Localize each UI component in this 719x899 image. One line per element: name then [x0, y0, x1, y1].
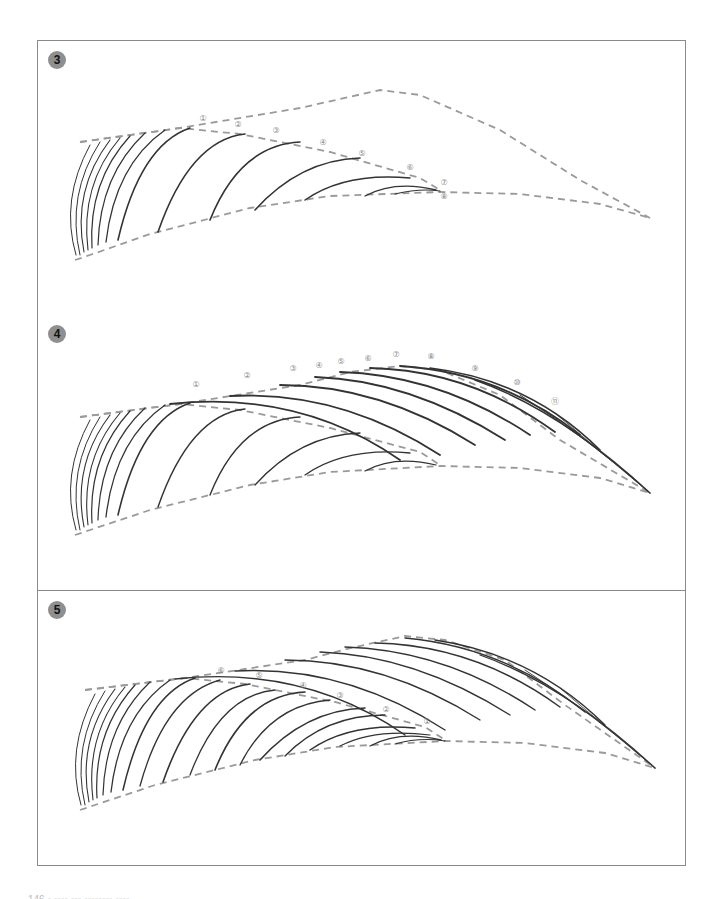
eyebrow-diagram-step-5: ⑥⑤④③②①	[75, 636, 655, 810]
stroke-order-label: ⑤	[358, 149, 365, 158]
stroke-order-label: ①	[199, 114, 206, 123]
hair-stroke	[475, 380, 650, 493]
stroke-order-label: ④	[299, 681, 306, 690]
stroke-order-label: ⑤	[337, 357, 344, 366]
hair-stroke	[560, 688, 655, 768]
stroke-order-label: ⑥	[364, 354, 371, 363]
eyebrow-diagram-step-3: ①②③④⑤⑥⑦⑧	[70, 90, 650, 260]
stroke-order-label: ②	[234, 120, 241, 129]
stroke-order-label: ⑩	[513, 378, 520, 387]
stroke-order-label: ⑧	[440, 192, 447, 201]
dashed-guide-outline	[80, 128, 440, 190]
dashed-guide-outline	[75, 466, 650, 535]
stroke-order-label: ②	[382, 705, 389, 714]
eyebrow-drawing-canvas: ①②③④⑤⑥⑦⑧①②③④⑤⑥⑦⑧⑨⑩⑪⑥⑤④③②①	[0, 0, 719, 899]
hair-stroke	[210, 142, 300, 220]
stroke-order-label: ⑦	[392, 350, 399, 359]
stroke-order-label: ⑥	[406, 163, 413, 172]
hair-stroke	[255, 433, 360, 485]
hair-stroke	[175, 677, 405, 735]
hair-stroke	[315, 377, 505, 440]
hair-stroke	[480, 655, 655, 768]
hair-stroke	[215, 692, 305, 770]
hair-stroke	[158, 134, 245, 232]
stroke-order-label: ②	[243, 371, 250, 380]
stroke-order-label: ④	[319, 138, 326, 147]
stroke-order-label: ④	[315, 361, 322, 370]
stroke-order-label: ⑥	[217, 666, 224, 675]
stroke-order-label: ⑨	[471, 364, 478, 373]
dashed-guide-outline	[80, 741, 655, 810]
stroke-order-label: ⑦	[440, 178, 447, 187]
hair-stroke	[210, 417, 300, 495]
hair-stroke	[92, 411, 130, 523]
dashed-guide-outline	[85, 678, 445, 740]
stroke-order-label: ①	[192, 380, 199, 389]
hair-stroke	[255, 158, 360, 210]
hair-stroke	[555, 413, 650, 493]
stroke-order-label: ⑪	[551, 397, 559, 406]
hair-stroke	[97, 685, 135, 798]
hair-stroke	[365, 186, 436, 196]
hair-stroke	[158, 409, 245, 507]
stroke-order-label: ⑧	[427, 352, 434, 361]
stroke-order-label: ①	[423, 717, 430, 726]
hair-stroke	[170, 402, 400, 460]
stroke-order-label: ⑤	[255, 671, 262, 680]
dashed-guide-outline	[75, 192, 650, 260]
hair-stroke	[163, 684, 250, 782]
hair-stroke	[92, 136, 130, 248]
stroke-order-label: ③	[272, 126, 279, 135]
stroke-order-label: ③	[336, 691, 343, 700]
dashed-guide-outline	[80, 404, 440, 465]
stroke-order-label: ③	[289, 364, 296, 373]
page-footer-text: 146 ▪ ▪▪▪▪ ▪▪▪ ▪▪▪▪▪▪▪▪ ▪▪▪▪	[28, 893, 198, 899]
hair-stroke	[435, 640, 605, 725]
eyebrow-diagram-step-4: ①②③④⑤⑥⑦⑧⑨⑩⑪	[70, 350, 650, 535]
hair-stroke	[365, 461, 436, 471]
